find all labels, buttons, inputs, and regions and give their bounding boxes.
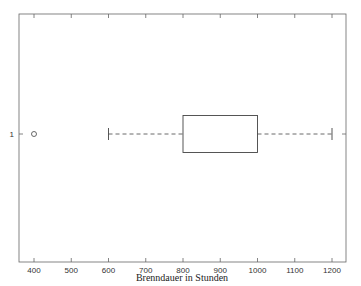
boxplot-chart: 400500600700800900100011001200 1 Brennda…	[0, 0, 361, 286]
outlier-marker	[32, 132, 37, 137]
y-tick-label: 1	[10, 130, 15, 139]
x-tick-label: 500	[65, 266, 79, 275]
x-axis-label: Brenndauer in Stunden	[136, 272, 228, 283]
iqr-box	[183, 116, 258, 153]
x-tick-label: 400	[27, 266, 41, 275]
x-tick-label: 600	[102, 266, 116, 275]
axes-frame	[19, 14, 346, 262]
x-tick-label: 1000	[249, 266, 267, 275]
x-tick-label: 1100	[286, 266, 304, 275]
box-group	[32, 116, 333, 153]
x-tick-label: 1200	[323, 266, 341, 275]
